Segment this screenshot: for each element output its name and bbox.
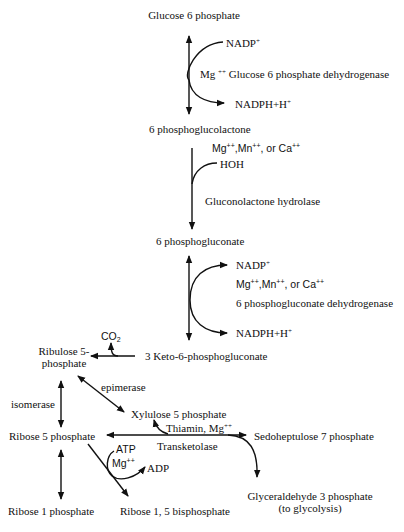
r2-ion-mn: Mn — [238, 142, 253, 154]
glyceraldehyde-note: (to glycolysis) — [240, 502, 380, 514]
compound-xylulose-5-phosphate: Xylulose 5 phosphate — [131, 408, 226, 420]
r3-nadp-text: NADP — [236, 259, 266, 271]
glyceraldehyde-curve — [228, 435, 257, 477]
nadp-curve-out — [190, 265, 227, 300]
r3-nadp: NADP+ — [236, 259, 270, 271]
r3-sep2: , or — [284, 278, 302, 290]
r3-ion-ca-sup: ++ — [316, 278, 324, 285]
r1-ion: Mg — [200, 68, 215, 80]
kinase-adp: ADP — [147, 462, 169, 474]
r2-ion-ca-sup: ++ — [292, 142, 300, 149]
transketolase-label: Transketolase — [157, 440, 218, 452]
co2-release-curve — [111, 343, 118, 356]
compound-ribose-5-phosphate: Ribose 5 phosphate — [9, 430, 95, 442]
r3-nadph: NADPH+H+ — [236, 327, 292, 339]
kinase-ion-text: Mg — [112, 457, 127, 469]
r1-nadph-sup: + — [287, 98, 291, 106]
transketolase-cofactors-sup: ++ — [224, 422, 232, 430]
r1-nadp: NADP+ — [226, 37, 260, 49]
r3-ion-mg-sup: ++ — [251, 278, 259, 285]
compound-glucose-6-phosphate: Glucose 6 phosphate — [134, 9, 254, 21]
r2-ion-mg-sup: ++ — [227, 142, 235, 149]
glyceraldehyde-name: Glyceraldehyde 3 phosphate — [240, 490, 380, 502]
transketolase-cofactors: Thiamin, Mg++ — [166, 422, 232, 434]
isomerase-label: isomerase — [11, 398, 55, 410]
compound-ribose-1-5-bisphosphate: Ribose 1, 5 bisphosphate — [120, 505, 230, 517]
co2-text: CO — [101, 330, 117, 342]
co2-sub: 2 — [117, 336, 121, 343]
r2-ions: Mg++,Mn++, or Ca++ — [212, 142, 300, 154]
r2-sep2: , or — [260, 142, 278, 154]
compound-sedoheptulose-7-phosphate: Sedoheptulose 7 phosphate — [254, 430, 374, 442]
kinase-ion-sup: ++ — [127, 457, 135, 464]
kinase-atp: ATP — [116, 443, 136, 455]
r1-nadp-sup: + — [256, 37, 260, 45]
co2-label: CO2 — [101, 330, 121, 342]
r3-nadp-sup: + — [266, 259, 270, 267]
compound-6-phosphogluconate: 6 phosphogluconate — [156, 235, 244, 247]
ribulose-line1: Ribulose 5- — [36, 345, 92, 357]
r3-ions: Mg++,Mn++, or Ca++ — [236, 278, 324, 290]
r3-ion-ca: Ca — [303, 278, 316, 290]
ribulose-line2: phosphate — [36, 357, 92, 369]
r2-hoh: HOH — [220, 158, 244, 170]
epimerase-label: epimerase — [101, 381, 146, 393]
r3-ion-mg: Mg — [236, 278, 251, 290]
r1-nadph-text: NADPH+H — [235, 98, 287, 110]
r1-nadph: NADPH+H+ — [235, 98, 291, 110]
compound-ribose-1-phosphate: Ribose 1 phosphate — [8, 505, 94, 517]
r3-nadph-text: NADPH+H — [236, 327, 288, 339]
r1-nadp-text: NADP — [226, 37, 256, 49]
nadph-curve-out — [190, 300, 227, 333]
compound-glyceraldehyde-3-phosphate: Glyceraldehyde 3 phosphate (to glycolysi… — [240, 490, 380, 514]
r3-ion-mn: Mn — [262, 278, 277, 290]
r1-ion-enzyme: Mg ++ Glucose 6 phosphate dehydrogenase — [200, 68, 389, 80]
r2-enzyme: Gluconolactone hydrolase — [205, 195, 320, 207]
r2-ion-mg: Mg — [212, 142, 227, 154]
compound-6-phosphoglucolactone: 6 phosphoglucolactone — [149, 123, 251, 135]
kinase-ion: Mg++ — [112, 457, 135, 469]
compound-ribulose-5-phosphate: Ribulose 5- phosphate — [36, 345, 92, 369]
r1-ion-sup: ++ — [218, 68, 226, 76]
transketolase-cofactors-text: Thiamin, Mg — [166, 422, 224, 434]
r2-ion-ca: Ca — [279, 142, 292, 154]
r3-nadph-sup: + — [288, 327, 292, 335]
r1-enzyme: Glucose 6 phosphate dehydrogenase — [229, 68, 389, 80]
r3-enzyme: 6 phosphogluconate dehydrogenase — [236, 297, 393, 309]
compound-3-keto-6-phosphogluconate: 3 Keto-6-phosphogluconate — [145, 350, 268, 362]
hoh-curve — [192, 163, 217, 184]
